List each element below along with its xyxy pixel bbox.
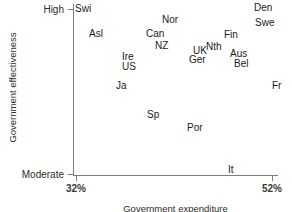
data-point-fin: Fin [224,30,238,40]
data-point-nth: Nth [206,42,222,52]
data-point-bel: Bel [234,59,248,69]
data-point-den: Den [254,3,272,13]
data-point-nor: Nor [162,15,178,25]
data-point-por: Por [187,123,203,133]
data-point-can: Can [146,29,164,39]
x-axis-tick-high [272,176,273,181]
y-axis-tick-moderate [68,174,73,175]
scatter-chart: High Moderate 32% 52% Government effecti… [0,0,292,212]
x-axis-title: Government expenditure [73,203,278,212]
data-point-ger: Ger [189,55,206,65]
x-axis-line [73,175,278,176]
data-point-swi: Swi [75,4,91,14]
y-axis-tick-label-moderate: Moderate [0,169,64,180]
data-point-it: It [228,165,234,175]
data-point-fr: Fr [272,81,281,91]
data-point-us: US [122,62,136,72]
data-point-asl: Asl [89,29,103,39]
data-point-ja: Ja [116,81,127,91]
x-axis-tick-label-low: 32% [56,183,96,194]
x-axis-tick-low [76,176,77,181]
y-axis-tick-high [68,9,73,10]
data-point-nz: NZ [155,41,168,51]
y-axis-title: Government effectiveness [7,8,18,168]
data-point-swe: Swe [255,18,274,28]
data-point-sp: Sp [147,110,159,120]
y-axis-line [73,4,74,176]
x-axis-tick-label-high: 52% [252,183,292,194]
